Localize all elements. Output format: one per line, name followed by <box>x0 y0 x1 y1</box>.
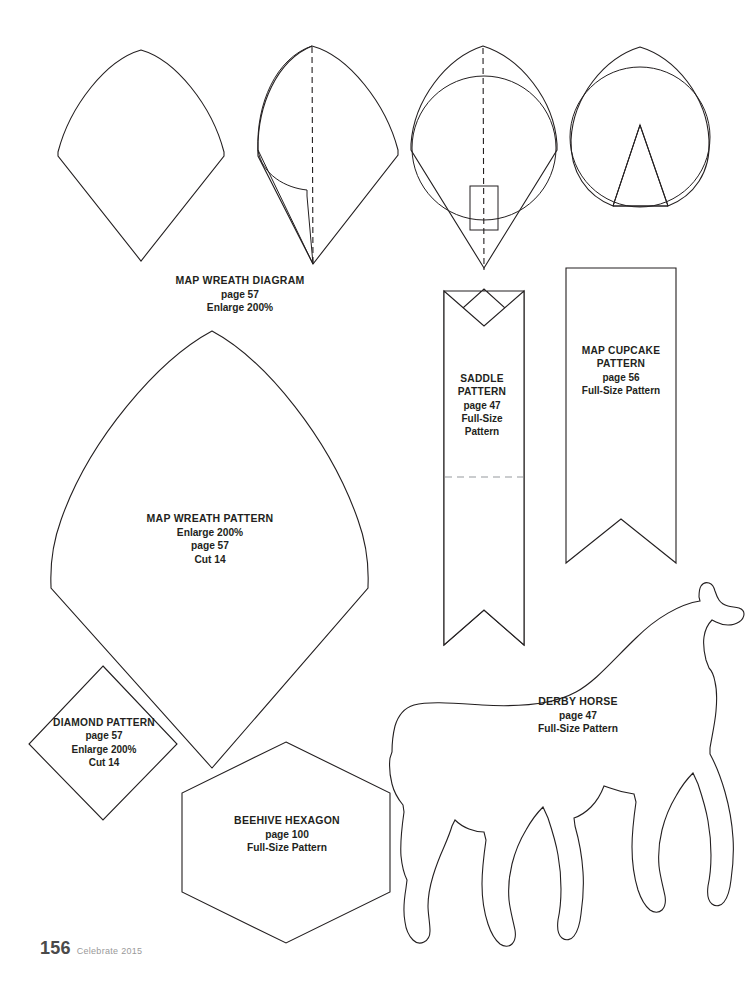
label-line-3: page 47 <box>443 399 521 412</box>
label-title: DERBY HORSE <box>505 695 651 709</box>
label-map-cupcake-pattern: MAP CUPCAKE PATTERN page 56 Full-Size Pa… <box>553 344 689 397</box>
label-title-line-2: PATTERN <box>443 385 521 398</box>
map-wreath-kite-step3 <box>411 46 557 270</box>
label-line-3: Enlarge 200% <box>158 301 322 314</box>
saddle-banner <box>444 289 524 645</box>
derby-horse-silhouette <box>390 583 744 947</box>
label-title: BEEHIVE HEXAGON <box>199 814 375 828</box>
label-map-wreath-diagram: MAP WREATH DIAGRAM page 57 Enlarge 200% <box>158 274 322 315</box>
label-line-4: Cut 14 <box>28 756 180 769</box>
label-title: MAP WREATH PATTERN <box>122 512 298 526</box>
label-line-2: page 47 <box>505 709 651 722</box>
map-cupcake-banner <box>566 268 676 563</box>
map-wreath-kite-step4 <box>570 47 710 207</box>
map-wreath-kite-step1 <box>58 50 224 261</box>
label-line-4: Cut 14 <box>122 553 298 566</box>
label-map-wreath-pattern: MAP WREATH PATTERN Enlarge 200% page 57 … <box>122 512 298 566</box>
pattern-sheet-page: MAP WREATH DIAGRAM page 57 Enlarge 200% … <box>0 0 748 991</box>
issue-name: Celebrate 2015 <box>77 946 143 956</box>
label-title: MAP WREATH DIAGRAM <box>158 274 322 288</box>
page-number: 156 <box>40 938 71 959</box>
label-title-line-1: SADDLE <box>443 372 521 385</box>
label-line-2: page 57 <box>28 729 180 742</box>
label-saddle-pattern: SADDLE PATTERN page 47 Full-Size Pattern <box>443 372 521 438</box>
page-footer: 156 Celebrate 2015 <box>40 938 142 959</box>
label-title: DIAMOND PATTERN <box>28 716 180 729</box>
label-diamond-pattern: DIAMOND PATTERN page 57 Enlarge 200% Cut… <box>28 716 180 769</box>
label-line-4: Full-Size Pattern <box>553 384 689 397</box>
label-title-line-2: PATTERN <box>553 357 689 370</box>
label-line-5: Pattern <box>443 425 521 438</box>
label-beehive-hexagon: BEEHIVE HEXAGON page 100 Full-Size Patte… <box>199 814 375 855</box>
label-line-2: page 57 <box>158 288 322 301</box>
label-line-3: Full-Size Pattern <box>505 722 651 735</box>
label-line-3: page 56 <box>553 371 689 384</box>
label-line-4: Full-Size <box>443 412 521 425</box>
map-wreath-kite-step2 <box>258 46 398 266</box>
label-line-2: page 100 <box>199 828 375 841</box>
label-line-3: page 57 <box>122 539 298 552</box>
label-title-line-1: MAP CUPCAKE <box>553 344 689 357</box>
label-line-2: Enlarge 200% <box>122 526 298 539</box>
label-derby-horse: DERBY HORSE page 47 Full-Size Pattern <box>505 695 651 736</box>
label-line-3: Full-Size Pattern <box>199 841 375 854</box>
label-line-3: Enlarge 200% <box>28 743 180 756</box>
